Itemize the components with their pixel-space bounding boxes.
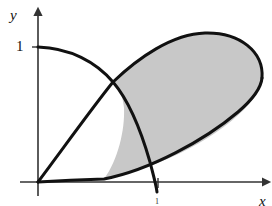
- x-tick-label-1: 1: [155, 198, 159, 206]
- figure-canvas: [0, 0, 272, 206]
- y-tick-label-1: 1: [16, 39, 24, 54]
- y-axis-label: y: [10, 8, 17, 23]
- figure-container: y x 1 1: [0, 0, 272, 206]
- x-axis-label: x: [259, 194, 266, 206]
